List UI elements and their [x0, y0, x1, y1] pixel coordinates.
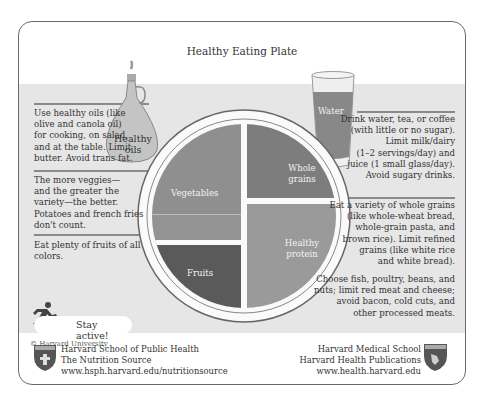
- label-whole-grains: Whole grains: [273, 163, 331, 185]
- footer-hsph: Harvard School of Public Health The Nutr…: [61, 344, 228, 377]
- hms-shield-icon: [424, 344, 447, 371]
- stay-active-badge: Stay active!: [34, 316, 132, 334]
- label-vegetables: Vegetables: [171, 188, 218, 199]
- label-fruits: Fruits: [187, 268, 213, 279]
- note-vegetables: The more veggies— and the greater the va…: [34, 175, 143, 231]
- hsph-url[interactable]: www.hsph.harvard.edu/nutritionsource: [61, 366, 228, 377]
- footer-hms: Harvard Medical School Harvard Health Pu…: [299, 344, 421, 377]
- note-oils: Use healthy oils (like olive and canola …: [34, 108, 132, 164]
- stay-active-label: Stay active!: [76, 319, 132, 341]
- label-healthy-protein: Healthy protein: [273, 238, 331, 260]
- note-whole-grains: Eat a variety of whole grains (like whol…: [329, 200, 455, 267]
- hsph-shield-icon: [34, 345, 56, 371]
- note-protein: Choose fish, poultry, beans, and nuts; l…: [314, 274, 455, 319]
- hms-url[interactable]: www.health.harvard.edu: [299, 366, 421, 377]
- healthy-eating-plate-card: Healthy Eating Plate: [18, 21, 466, 385]
- note-water: Drink water, tea, or coffee (with little…: [341, 114, 455, 181]
- note-fruits: Eat plenty of fruits of all colors.: [34, 240, 140, 262]
